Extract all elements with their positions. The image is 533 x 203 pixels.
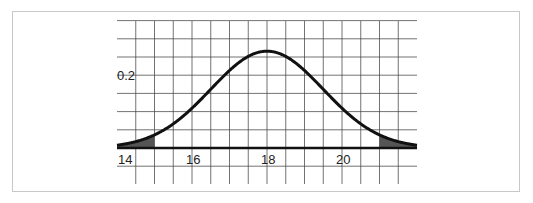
x-tick-label: 14: [118, 152, 132, 167]
y-tick-label: 0.2: [117, 68, 135, 83]
x-tick-label: 20: [336, 152, 350, 167]
x-tick-label: 18: [261, 152, 275, 167]
x-tick-label: 16: [186, 152, 200, 167]
normal-distribution-chart: 141618200.2: [0, 0, 533, 203]
